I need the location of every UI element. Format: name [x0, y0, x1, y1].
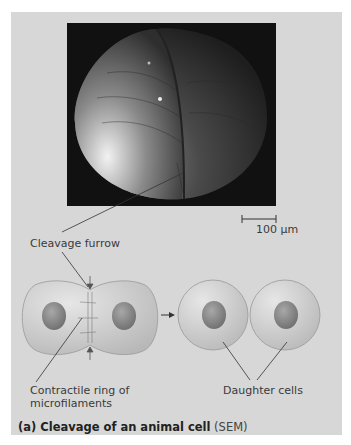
caption-title: (a) Cleavage of an animal cell — [18, 420, 210, 434]
caption-method: (SEM) — [210, 420, 247, 434]
figure-caption: (a) Cleavage of an animal cell (SEM) — [18, 420, 248, 434]
sem-micrograph — [67, 23, 276, 206]
label-cleavage-furrow: Cleavage furrow — [30, 237, 120, 250]
label-contractile-ring-line2: microfilaments — [30, 397, 112, 410]
scale-bar-label: 100 µm — [256, 223, 298, 236]
label-daughter-cells: Daughter cells — [223, 384, 303, 397]
label-contractile-ring: Contractile ring of — [30, 384, 129, 397]
